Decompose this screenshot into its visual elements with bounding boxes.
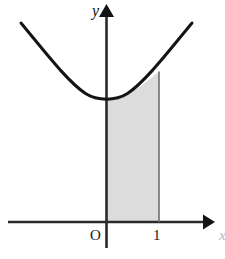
parabola-figure-svg xyxy=(0,0,225,259)
y-axis-label: y xyxy=(92,3,99,19)
figure-canvas: y O 1 x xyxy=(0,0,225,259)
origin-label: O xyxy=(90,228,101,243)
shaded-region-area xyxy=(107,71,160,222)
x-axis-arrow-icon xyxy=(203,215,215,230)
x-tick-label-1: 1 xyxy=(153,228,161,243)
y-axis-arrow-icon xyxy=(99,4,114,17)
x-axis-label: x xyxy=(219,228,225,243)
